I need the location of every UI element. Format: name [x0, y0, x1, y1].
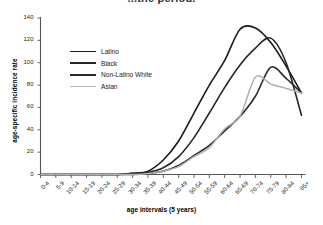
y-axis-title: age-specific incidence rate — [11, 41, 18, 161]
y-tick-label: 40 — [18, 126, 34, 132]
legend-item: Latino — [70, 46, 180, 58]
legend-swatch-icon — [70, 51, 96, 52]
legend-label: Non-Latino White — [101, 71, 152, 78]
legend-item: Black — [70, 58, 180, 70]
y-tick-label: 0 — [18, 171, 34, 177]
chart-figure: ...the period. 020406080100120140 0-45-9… — [0, 0, 323, 225]
legend-item: Asian — [70, 81, 180, 93]
y-tick-label: 100 — [18, 59, 34, 65]
legend-label: Asian — [101, 83, 118, 90]
chart-legend: LatinoBlackNon-Latino WhiteAsian — [70, 46, 180, 92]
legend-item: Non-Latino White — [70, 69, 180, 81]
axis-lines — [41, 17, 306, 175]
y-tick-label: 140 — [18, 14, 34, 20]
y-tick-label: 20 — [18, 148, 34, 154]
legend-swatch-icon — [70, 86, 96, 87]
y-tick-label: 80 — [18, 81, 34, 87]
x-axis-title: age intervals (5 years) — [0, 206, 323, 213]
y-tick-label: 60 — [18, 103, 34, 109]
y-tick-label: 120 — [18, 36, 34, 42]
legend-label: Black — [101, 60, 117, 67]
legend-swatch-icon — [70, 62, 96, 64]
legend-label: Latino — [101, 48, 119, 55]
legend-swatch-icon — [70, 74, 96, 76]
